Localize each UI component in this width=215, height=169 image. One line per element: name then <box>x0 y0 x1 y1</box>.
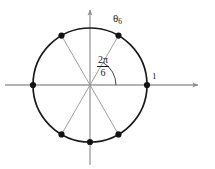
angle-numerator: 2π <box>97 55 109 66</box>
root-point-120 <box>58 33 64 39</box>
root-label-theta-6: θ6 <box>113 13 122 25</box>
unit-circle-figure: θ6 1 2π 6 <box>0 0 215 169</box>
root-point-240 <box>58 131 64 137</box>
unit-circle-diagram <box>0 0 215 169</box>
root-point-300 <box>115 131 121 137</box>
radius-label-one: 1 <box>152 72 157 81</box>
root-point-180 <box>30 82 36 88</box>
root-point-bottom <box>87 139 93 145</box>
root-point-60 <box>115 33 121 39</box>
angle-label-fraction: 2π 6 <box>97 55 109 78</box>
root-point-0 <box>144 82 150 88</box>
theta-subscript: 6 <box>118 17 122 26</box>
angle-denominator: 6 <box>97 68 109 79</box>
